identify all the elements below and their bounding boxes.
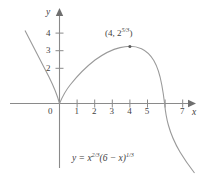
x-tick-label-4: 4 [127,107,132,116]
equation-lhs: y = x [72,153,92,163]
point-label-close: ) [129,28,132,38]
y-axis-label: y [46,8,50,18]
curve-main-arch [60,46,165,103]
equation-exponent-2: 1/3 [126,151,134,158]
x-tick-label-3: 3 [110,107,115,116]
x-tick-label-7: 7 [180,107,185,116]
curve-equation-label: y = x2/3(6 − x)1/3 [72,152,134,164]
x-axis-label: x [192,108,196,118]
local-maximum-marker [128,45,131,48]
y-tick-label-2: 2 [46,64,51,73]
y-axis-arrowhead [56,8,63,16]
y-tick-label-3: 3 [46,46,51,55]
curve-left-branch [25,31,60,104]
x-tick-label-1: 1 [74,107,79,116]
equation-exponent-1: 2/3 [92,151,100,158]
x-tick-label-5: 5 [145,107,150,116]
y-tick-label-4: 4 [46,29,51,38]
figure-container: y x 0 1 2 3 4 5 7 2 3 4 (4, 25/3) y = x2… [0,0,207,181]
point-label-open: (4, 2 [105,28,122,38]
origin-label: 0 [48,107,53,116]
equation-middle: (6 − x) [100,153,126,163]
x-tick-label-2: 2 [92,107,97,116]
local-maximum-label: (4, 25/3) [105,27,132,38]
